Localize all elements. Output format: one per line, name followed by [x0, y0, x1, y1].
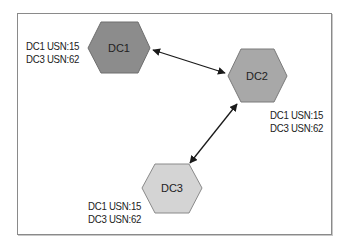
usn-table-dc3: DC1 USN:15 DC3 USN:62 [88, 200, 141, 226]
usn-entry: DC1 USN:15 [88, 200, 141, 213]
usn-table-dc2: DC1 USN:15 DC3 USN:62 [270, 109, 323, 135]
diagram-canvas: DC1 DC2 DC3 DC1 USN:15 DC3 USN:62 DC1 US… [0, 0, 347, 243]
node-dc3-label: DC3 [161, 182, 183, 194]
usn-table-dc1: DC1 USN:15 DC3 USN:62 [26, 40, 79, 66]
usn-entry: DC3 USN:62 [88, 213, 141, 226]
node-dc3[interactable]: DC3 [142, 164, 202, 213]
node-dc1[interactable]: DC1 [88, 22, 150, 73]
usn-entry: DC1 USN:15 [26, 40, 79, 53]
node-dc2-label: DC2 [246, 70, 268, 82]
replication-link-dc2-dc3 [190, 104, 237, 163]
node-dc2[interactable]: DC2 [228, 49, 287, 102]
usn-entry: DC3 USN:62 [26, 53, 79, 66]
usn-entry: DC3 USN:62 [270, 122, 323, 135]
replication-link-dc1-dc2 [153, 50, 225, 73]
node-dc1-label: DC1 [108, 42, 130, 54]
usn-entry: DC1 USN:15 [270, 109, 323, 122]
